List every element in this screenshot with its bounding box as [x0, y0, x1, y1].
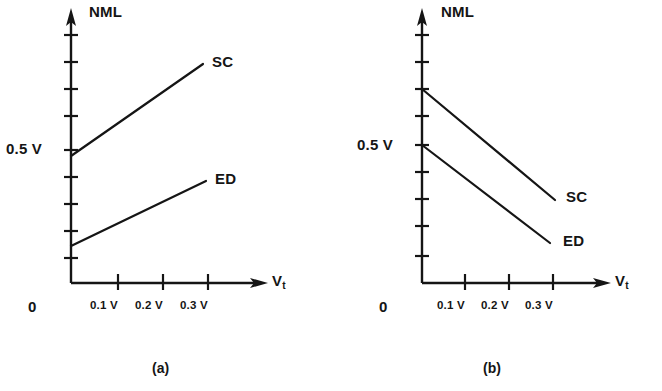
y-value-label-a: 0.5 V [6, 140, 42, 157]
chart-panel-b: NML 0.5 V 0 0.1 V 0.2 V 0.3 V Vt SC ED (… [331, 0, 662, 391]
x-tick-label-a-3: 0.3 V [180, 299, 208, 311]
x-tick-label-b-2: 0.2 V [481, 299, 509, 311]
series-line-ed-a [71, 181, 206, 246]
series-line-ed-b [422, 145, 550, 243]
series-line-sc-b [422, 89, 555, 200]
x-axis-label-b-sub: t [625, 280, 629, 291]
x-tick-label-b-1: 0.1 V [437, 299, 465, 311]
series-label-sc-b: SC [566, 188, 587, 205]
panel-caption-a: (a) [152, 360, 169, 376]
x-tick-label-a-1: 0.1 V [90, 299, 118, 311]
chart-b-svg [331, 0, 662, 391]
x-axis-label-a-sub: t [282, 280, 286, 291]
series-label-ed-b: ED [563, 232, 584, 249]
y-value-label-b: 0.5 V [357, 136, 393, 153]
chart-panel-a: NML 0.5 V 0 0.1 V 0.2 V 0.3 V Vt SC ED (… [0, 0, 331, 391]
x-tick-label-b-3: 0.3 V [525, 299, 553, 311]
panel-caption-b: (b) [483, 360, 501, 376]
series-label-sc-a: SC [212, 53, 233, 70]
origin-label-b: 0 [379, 298, 388, 315]
x-axis-label-b-main: V [615, 272, 625, 289]
x-tick-label-a-2: 0.2 V [135, 299, 163, 311]
series-line-sc-a [71, 64, 203, 156]
figure-container: NML 0.5 V 0 0.1 V 0.2 V 0.3 V Vt SC ED (… [0, 0, 662, 391]
series-label-ed-a: ED [215, 170, 236, 187]
x-axis-label-b: Vt [615, 272, 629, 291]
x-axis-label-a-main: V [272, 272, 282, 289]
x-axis-label-a: Vt [272, 272, 286, 291]
y-axis-label-b: NML [441, 3, 474, 20]
origin-label-a: 0 [28, 298, 37, 315]
y-axis-label-a: NML [89, 3, 122, 20]
chart-a-svg [0, 0, 331, 391]
